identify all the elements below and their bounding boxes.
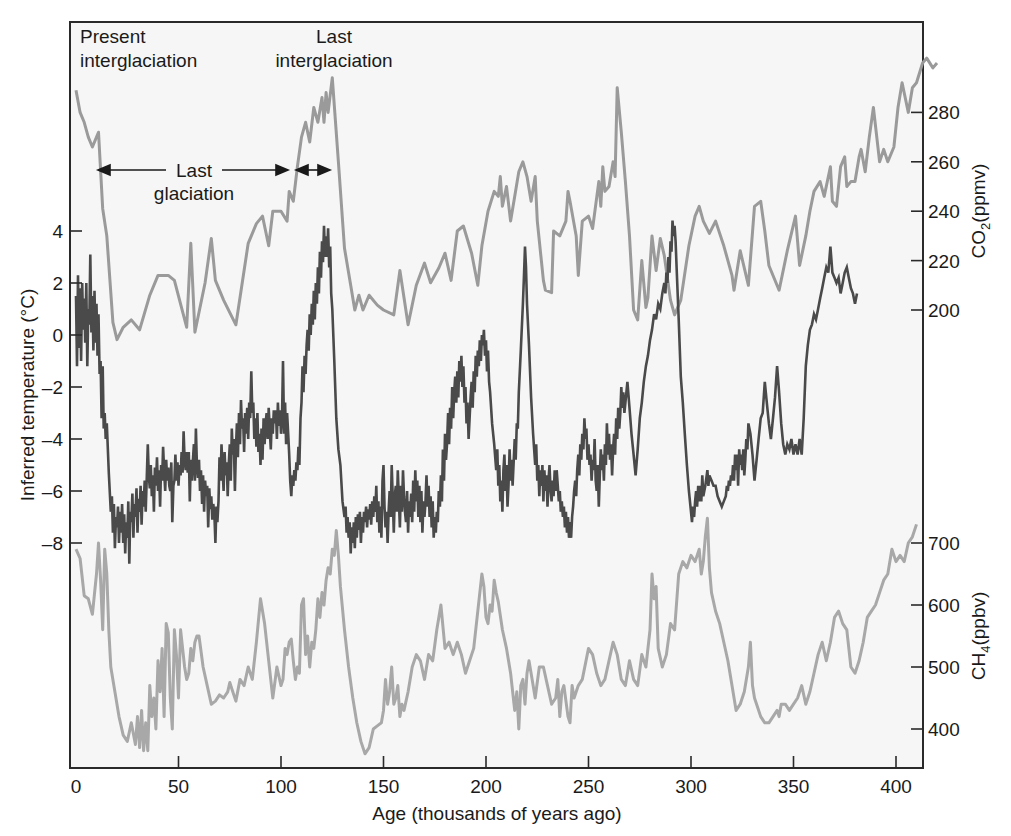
- temperature-tick-label: 2: [52, 273, 63, 294]
- x-tick-label: 250: [573, 776, 605, 797]
- plot-frame: [70, 22, 923, 768]
- present-interglaciation-label-line1: Present: [80, 26, 146, 47]
- ice-core-chart: Present interglaciation Last interglacia…: [0, 0, 1011, 836]
- co2-tick-label: 200: [928, 300, 960, 321]
- x-tick-label: 150: [368, 776, 400, 797]
- co2-title-unit: (ppmv): [968, 164, 989, 223]
- last-interglaciation-label-line2: interglaciation: [275, 50, 392, 71]
- ch4-tick-label: 700: [928, 533, 960, 554]
- ch4-tick-label: 400: [928, 719, 960, 740]
- temperature-tick-label: 4: [52, 221, 63, 242]
- temperature-axis-title: Inferred temperature (°C): [17, 289, 38, 501]
- ch4-title-unit: (ppbv): [968, 592, 989, 646]
- x-tick-label: 50: [168, 776, 189, 797]
- present-interglaciation-label-line2: interglaciation: [80, 50, 197, 71]
- ch4-tick-label: 600: [928, 595, 960, 616]
- last-interglaciation-label-line1: Last: [316, 26, 353, 47]
- temperature-tick-label: –2: [42, 377, 63, 398]
- x-tick-label: 100: [265, 776, 297, 797]
- x-tick-label: 400: [880, 776, 912, 797]
- temperature-tick-label: 0: [52, 325, 63, 346]
- ch4-title-sub: 4: [978, 646, 993, 653]
- co2-tick-label: 240: [928, 201, 960, 222]
- temperature-tick-label: –4: [42, 429, 64, 450]
- temperature-tick-label: –6: [42, 481, 63, 502]
- co2-tick-label: 280: [928, 102, 960, 123]
- co2-title-main: CO: [968, 230, 989, 259]
- temperature-tick-label: –8: [42, 533, 63, 554]
- co2-tick-label: 220: [928, 251, 960, 272]
- x-tick-label: 0: [71, 776, 82, 797]
- co2-title-sub: 2: [978, 223, 993, 230]
- last-glaciation-label-line1: Last: [176, 160, 213, 181]
- x-tick-label: 300: [675, 776, 707, 797]
- co2-tick-label: 260: [928, 152, 960, 173]
- ch4-tick-label: 500: [928, 657, 960, 678]
- x-axis-title: Age (thousands of years ago): [372, 803, 621, 824]
- x-tick-label: 350: [778, 776, 810, 797]
- ch4-title-main: CH: [968, 653, 989, 680]
- x-tick-label: 200: [470, 776, 502, 797]
- last-glaciation-label-line2: glaciation: [154, 183, 234, 204]
